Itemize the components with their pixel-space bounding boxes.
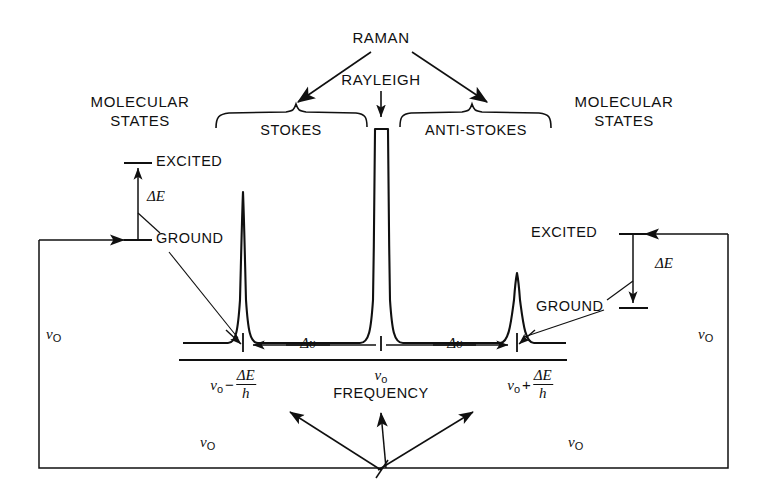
delta-e-over-h: ΔEh: [236, 368, 256, 401]
label-raman: RAMAN: [352, 30, 409, 47]
nu-symbol: ν: [507, 377, 514, 393]
photon-label-right: νO: [698, 326, 713, 344]
nu-subscript: O: [705, 332, 714, 344]
right-panel-heading-line2: STATES: [594, 113, 654, 130]
nu-symbol: ν: [200, 434, 207, 450]
label-anti-stokes: ANTI-STOKES: [425, 122, 527, 138]
figure-canvas: RAMAN RAYLEIGH STOKES ANTI-STOKES MOLECU…: [0, 0, 763, 494]
leader-ground-to-stokes: [169, 252, 238, 338]
nu-symbol: ν: [568, 434, 575, 450]
nu-symbol: ν: [46, 326, 53, 342]
delta-nu-right-label: Δυ: [447, 335, 463, 352]
label-stokes: STOKES: [260, 122, 322, 138]
nu-subscript: o: [514, 383, 520, 395]
axis-frequency-label: FREQUENCY: [333, 385, 429, 401]
axis-tick-left-stokes: νo−ΔEh: [210, 368, 256, 401]
raman-arrow-right: [412, 52, 487, 102]
left-excited-label: EXCITED: [156, 153, 222, 169]
nu-subscript: O: [53, 332, 62, 344]
delta-e-over-h: ΔEh: [533, 368, 553, 401]
plus-operator: +: [520, 376, 533, 393]
energy-levels-right: [607, 234, 648, 308]
left-panel-heading-line1: MOLECULAR: [91, 94, 190, 111]
axis-tick-right-antistokes: νo+ΔEh: [507, 368, 553, 401]
right-panel-heading-line1: MOLECULAR: [575, 94, 674, 111]
axis-tick-center-nu0: νo: [375, 367, 388, 385]
right-delta-e-label: ΔE: [655, 255, 673, 272]
nu-subscript: o: [217, 383, 223, 395]
nu-symbol: ν: [210, 377, 217, 393]
nu-subscript: o: [381, 373, 387, 385]
nu-subscript: O: [207, 440, 216, 452]
left-panel-heading-line2: STATES: [110, 113, 170, 130]
right-excited-label: EXCITED: [531, 224, 597, 240]
fraction-numerator: ΔE: [533, 368, 553, 385]
label-rayleigh: RAYLEIGH: [341, 72, 421, 89]
fraction-denominator: h: [236, 385, 256, 402]
minus-operator: −: [223, 376, 236, 393]
photon-label-bottom-left: νO: [200, 434, 215, 452]
nu-symbol: ν: [698, 326, 705, 342]
right-ground-label: GROUND: [536, 298, 603, 314]
left-delta-e-label: ΔE: [147, 188, 165, 205]
fraction-numerator: ΔE: [236, 368, 256, 385]
nu-subscript: O: [575, 440, 584, 452]
left-ground-label: GROUND: [156, 230, 223, 246]
photon-label-bottom-right: νO: [568, 434, 583, 452]
photon-label-left: νO: [46, 326, 61, 344]
fraction-denominator: h: [533, 385, 553, 402]
nu-symbol: ν: [375, 367, 382, 383]
delta-nu-left-label: Δυ: [300, 335, 316, 352]
spectrum-trace: [183, 129, 566, 343]
